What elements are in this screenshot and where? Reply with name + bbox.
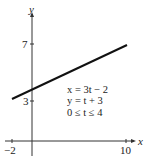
parameter-range: 0 ≤ t ≤ 4 — [67, 107, 103, 118]
y-axis-label: y — [28, 3, 34, 15]
x-axis-arrow-icon — [131, 139, 136, 143]
parametric-plot: y x −2 10 7 3 x = 3t − 2 y = t + 3 0 ≤ t… — [0, 0, 146, 166]
x-tick-label-10: 10 — [120, 144, 132, 156]
x-axis-label: x — [137, 135, 143, 147]
y-tick-label-3: 3 — [23, 95, 29, 107]
equation-x: x = 3t − 2 — [67, 84, 108, 95]
equation-y: y = t + 3 — [67, 95, 103, 106]
x-tick-label-minus-2: −2 — [4, 144, 16, 156]
y-tick-label-7: 7 — [22, 38, 28, 50]
